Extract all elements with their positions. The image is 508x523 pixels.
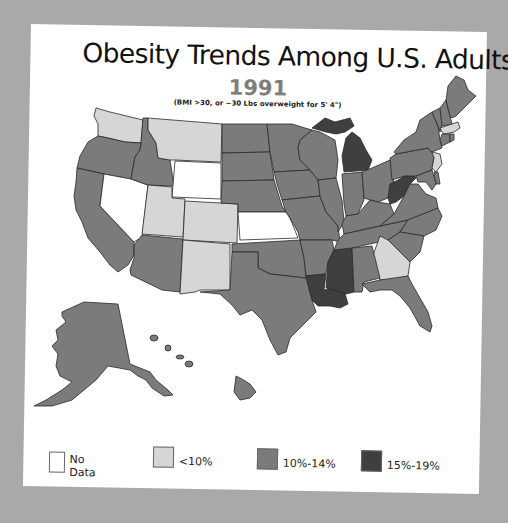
legend-label-lt10: <10% bbox=[179, 455, 213, 469]
state-hawaii-island-4 bbox=[185, 361, 193, 367]
state-hawaii-island-1 bbox=[150, 335, 158, 341]
state-montana bbox=[148, 118, 222, 162]
state-south-dakota bbox=[222, 152, 274, 181]
state-indiana bbox=[342, 172, 364, 216]
state-colorado bbox=[183, 201, 238, 243]
state-hawaii-island-3 bbox=[176, 355, 184, 359]
legend-swatch-15-19 bbox=[361, 450, 382, 471]
legend-item-lt10: <10% bbox=[153, 446, 213, 468]
state-connecticut bbox=[440, 134, 450, 146]
state-new-mexico bbox=[180, 240, 230, 294]
legend-label-no-data: No Data bbox=[69, 453, 101, 480]
state-rhode-island bbox=[450, 134, 454, 142]
state-maine bbox=[446, 76, 476, 118]
state-north-dakota bbox=[222, 124, 270, 153]
state-alaska bbox=[34, 302, 173, 406]
legend-item-10-14: 10%-14% bbox=[257, 448, 336, 470]
legend-swatch-no-data bbox=[49, 451, 65, 472]
legend-item-no-data: No Data bbox=[49, 445, 102, 480]
state-arizona bbox=[130, 235, 183, 292]
legend-label-15-19: 15%-19% bbox=[387, 459, 440, 473]
legend-swatch-10-14 bbox=[257, 448, 278, 469]
state-new-jersey bbox=[432, 152, 442, 172]
state-hawaii-big-island bbox=[234, 376, 256, 400]
legend-swatch-lt10 bbox=[153, 446, 174, 467]
state-florida bbox=[362, 276, 432, 332]
state-wyoming bbox=[172, 161, 221, 199]
legend-label-10-14: 10%-14% bbox=[283, 457, 336, 471]
state-hawaii-island-2 bbox=[165, 345, 171, 351]
state-michigan bbox=[342, 132, 372, 172]
legend-item-15-19: 15%-19% bbox=[361, 450, 440, 472]
